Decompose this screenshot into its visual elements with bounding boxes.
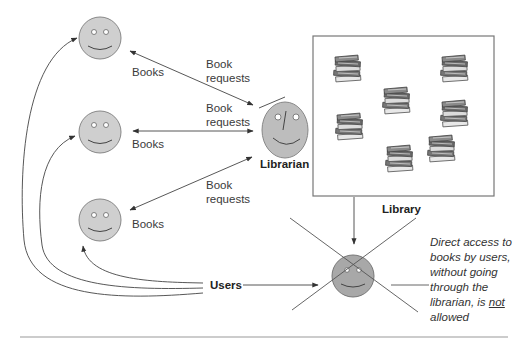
- librarian-face-icon: [259, 97, 308, 158]
- book-stack-icon: [336, 113, 363, 140]
- book-stack-icon: [441, 55, 468, 82]
- users-label: Users: [210, 278, 242, 292]
- users-curve-1: [22, 38, 203, 296]
- note-line-4: through the: [430, 280, 512, 295]
- note-line-3: without going: [430, 265, 512, 280]
- books-label-3: Books: [132, 217, 164, 231]
- request-label-1: Book requests: [206, 57, 250, 85]
- users-curve-3: [83, 246, 203, 283]
- book-stack-icon: [386, 145, 413, 172]
- request-label-1-line2: requests: [206, 71, 250, 85]
- library-label: Library: [382, 202, 421, 216]
- librarian-label: Librarian: [260, 157, 309, 171]
- request-label-3: Book requests: [206, 178, 250, 206]
- note-emphasis: not: [489, 296, 505, 308]
- request-label-3-line2: requests: [206, 192, 250, 206]
- note-line-5: librarian, is not: [430, 295, 512, 310]
- books-label-2: Books: [132, 137, 164, 151]
- book-stack-icon: [428, 135, 455, 162]
- note-line-2: books by users,: [430, 250, 512, 265]
- books-label-1: Books: [132, 65, 164, 79]
- users-curve-2: [40, 136, 203, 289]
- note-line-5-text: librarian, is: [430, 296, 489, 308]
- note-line-1: Direct access to: [430, 235, 512, 250]
- note-text: Direct access to books by users, without…: [430, 235, 512, 325]
- request-label-2: Book requests: [206, 101, 250, 129]
- request-label-1-line1: Book: [206, 57, 250, 71]
- request-label-2-line1: Book: [206, 101, 250, 115]
- book-stack-icon: [441, 100, 468, 127]
- user-face-icon: [79, 17, 121, 59]
- request-label-2-line2: requests: [206, 115, 250, 129]
- book-stack-icon: [334, 55, 361, 82]
- request-label-3-line1: Book: [206, 178, 250, 192]
- user-face-icon: [79, 111, 121, 153]
- user-face-icon: [79, 199, 121, 241]
- note-line-6: allowed: [430, 310, 512, 325]
- book-stack-icon: [383, 87, 410, 114]
